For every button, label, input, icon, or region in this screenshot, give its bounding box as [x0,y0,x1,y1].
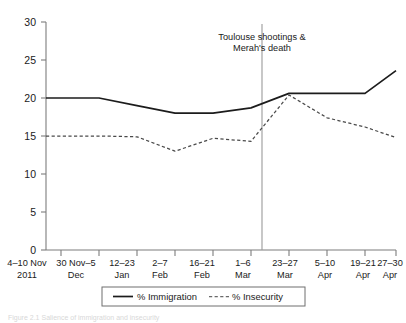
x-tick-label: 19–21 [350,258,376,268]
x-tick-label: Feb [194,270,210,280]
y-axis-ticks [41,22,46,250]
y-tick-label: 5 [30,206,36,218]
figure-caption: Figure 2.1 Salience of immigration and i… [8,314,160,322]
annotation-line-1: Toulouse shootings & [218,32,305,42]
x-tick-label: Jan [115,270,130,280]
x-tick-label: Apr [318,270,332,280]
event-annotation: Toulouse shootings & Merah's death [218,32,305,53]
figure-container: 30 25 20 15 10 5 0 4–10 Nov 2011 30 Nov–… [0,0,406,323]
series-line-insecurity [46,95,396,151]
x-tick-label: 30 Nov–5 [56,258,95,268]
x-tick-label: Dec [68,270,85,280]
x-tick-label: 4–10 Nov [7,258,47,268]
line-chart: 30 25 20 15 10 5 0 4–10 Nov 2011 30 Nov–… [0,0,406,323]
y-tick-label: 25 [24,54,36,66]
x-tick-label: 23–27 [272,258,298,268]
y-tick-label: 30 [24,16,36,28]
y-tick-label: 0 [30,244,36,256]
y-axis-labels: 30 25 20 15 10 5 0 [24,16,36,256]
legend-label-immigration: % Immigration [137,291,197,302]
x-axis-ticks [61,250,396,256]
y-tick-label: 20 [24,92,36,104]
x-tick-label: 2–7 [152,258,167,268]
x-tick-label: Apr [356,270,370,280]
x-tick-label: Feb [152,270,168,280]
legend-label-insecurity: % Insecurity [232,291,283,302]
x-tick-label: 12–23 [109,258,135,268]
x-tick-label: 27–30 [377,258,403,268]
x-tick-label: Mar [235,270,251,280]
x-tick-label: 5–10 [315,258,335,268]
x-axis-labels: 4–10 Nov 2011 30 Nov–5 Dec 12–23 Jan 2–7… [7,258,402,280]
y-tick-label: 15 [24,130,36,142]
x-tick-label: Apr [383,270,397,280]
x-tick-label: 2011 [17,270,37,280]
chart-legend: % Immigration % Insecurity [102,287,305,306]
annotation-line-2: Merah's death [233,43,291,53]
series-line-immigration [46,71,396,114]
x-tick-label: 16–21 [189,258,215,268]
y-tick-label: 10 [24,168,36,180]
x-tick-label: 1–6 [235,258,250,268]
x-tick-label: Mar [277,270,293,280]
